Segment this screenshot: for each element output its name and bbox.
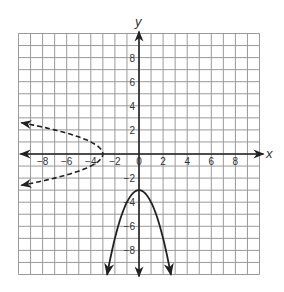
y-tick-label: 8 xyxy=(129,53,135,64)
curves xyxy=(21,123,171,275)
y-tick-label: 2 xyxy=(129,125,135,136)
x-tick-label: 8 xyxy=(233,156,239,167)
x-tick-label: 4 xyxy=(184,156,190,167)
y-tick-label: −2 xyxy=(124,173,136,184)
x-tick-label: −2 xyxy=(109,156,121,167)
x-tick-label: −6 xyxy=(61,156,73,167)
y-tick-label: 6 xyxy=(129,77,135,88)
axes xyxy=(21,32,264,277)
y-axis-label: y xyxy=(134,14,143,29)
y-tick-label: −8 xyxy=(124,245,136,256)
x-tick-label: −8 xyxy=(37,156,49,167)
x-tick-label: 2 xyxy=(160,156,166,167)
y-tick-label: 4 xyxy=(129,101,135,112)
x-tick-label: 0 xyxy=(136,156,142,167)
x-tick-label: 6 xyxy=(209,156,215,167)
x-axis-label: x xyxy=(265,146,273,161)
y-tick-label: −6 xyxy=(124,221,136,232)
coordinate-plane: −8−6−4−2024688642−2−4−6−8 x y xyxy=(0,0,284,292)
